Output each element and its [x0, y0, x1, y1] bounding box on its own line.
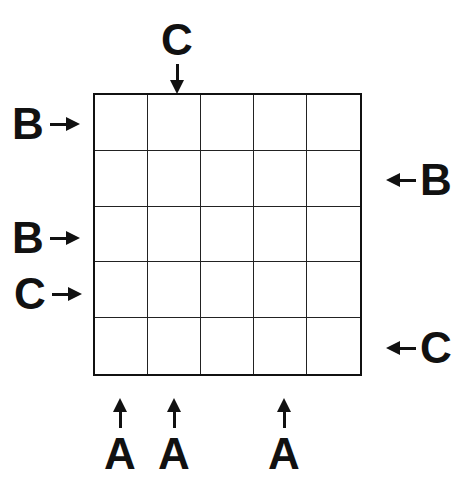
grid-cell[interactable]	[148, 207, 201, 263]
clue-letter: A	[104, 432, 136, 476]
clue-letter: C	[161, 18, 193, 62]
grid-cell[interactable]	[95, 318, 148, 374]
clue-letter: C	[420, 326, 452, 370]
clue-letter: C	[14, 272, 46, 316]
arrow-right-icon	[50, 117, 80, 131]
arrow-right-icon	[50, 231, 80, 245]
grid-cell[interactable]	[307, 318, 360, 374]
grid-cell[interactable]	[307, 95, 360, 151]
grid-cell[interactable]	[307, 207, 360, 263]
clue-bottom-col1: A	[104, 398, 136, 476]
grid-cell[interactable]	[254, 262, 307, 318]
arrow-left-icon	[386, 341, 416, 355]
grid-cell[interactable]	[95, 262, 148, 318]
grid-cell[interactable]	[95, 95, 148, 151]
grid-cell[interactable]	[148, 95, 201, 151]
clue-right-row2: B	[386, 158, 452, 202]
grid-cell[interactable]	[254, 207, 307, 263]
arrow-up-icon	[167, 398, 181, 428]
grid-cell[interactable]	[148, 151, 201, 207]
grid-cell[interactable]	[95, 207, 148, 263]
clue-letter: B	[12, 216, 44, 260]
grid-cell[interactable]	[201, 95, 254, 151]
grid-cell[interactable]	[201, 318, 254, 374]
clue-letter: A	[268, 432, 300, 476]
clue-left-row1: B	[12, 102, 80, 146]
clue-bottom-col2: A	[158, 398, 190, 476]
puzzle-grid	[93, 93, 362, 376]
grid-cell[interactable]	[254, 95, 307, 151]
grid-cell[interactable]	[254, 151, 307, 207]
grid-cell[interactable]	[307, 262, 360, 318]
grid-cell[interactable]	[201, 207, 254, 263]
arrow-left-icon	[386, 173, 416, 187]
grid-cell[interactable]	[148, 318, 201, 374]
grid-cell[interactable]	[201, 151, 254, 207]
arrow-right-icon	[52, 287, 82, 301]
arrow-up-icon	[113, 398, 127, 428]
arrow-down-icon	[170, 64, 184, 94]
clue-letter: A	[158, 432, 190, 476]
clue-right-row5: C	[386, 326, 452, 370]
grid-cell[interactable]	[307, 151, 360, 207]
clue-left-row3: B	[12, 216, 80, 260]
clue-bottom-col4: A	[268, 398, 300, 476]
grid-cell[interactable]	[148, 262, 201, 318]
grid-cell[interactable]	[95, 151, 148, 207]
grid-cell[interactable]	[201, 262, 254, 318]
clue-letter: B	[420, 158, 452, 202]
clue-left-row4: C	[14, 272, 82, 316]
clue-top-col2: C	[161, 18, 193, 94]
grid-cell[interactable]	[254, 318, 307, 374]
arrow-up-icon	[277, 398, 291, 428]
clue-letter: B	[12, 102, 44, 146]
